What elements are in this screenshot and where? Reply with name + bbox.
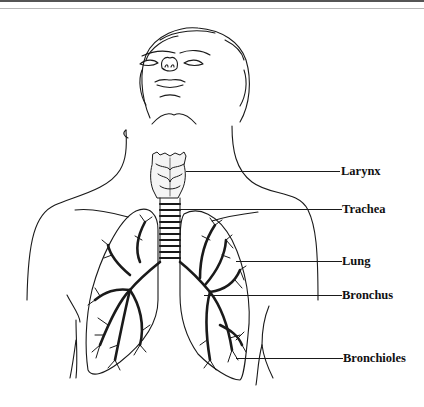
head-outline — [140, 28, 249, 124]
label-bronchus: Bronchus — [342, 288, 393, 302]
larynx-shape — [151, 152, 186, 198]
label-lung: Lung — [342, 254, 371, 268]
bronchioles-branches — [88, 215, 246, 370]
bronchial-tree — [95, 222, 242, 360]
label-trachea: Trachea — [342, 202, 386, 216]
leader-line-trachea — [180, 209, 342, 210]
leader-line-bronchioles — [236, 358, 343, 359]
leader-line-bronchus — [204, 295, 342, 296]
leader-line-larynx — [186, 171, 340, 172]
trachea-shape — [160, 198, 180, 262]
label-larynx: Larynx — [341, 164, 381, 178]
respiratory-diagram: Larynx Trachea Lung Bronchus Bronchioles — [0, 0, 424, 407]
leader-line-lung — [236, 261, 342, 262]
label-bronchioles: Bronchioles — [343, 351, 406, 365]
